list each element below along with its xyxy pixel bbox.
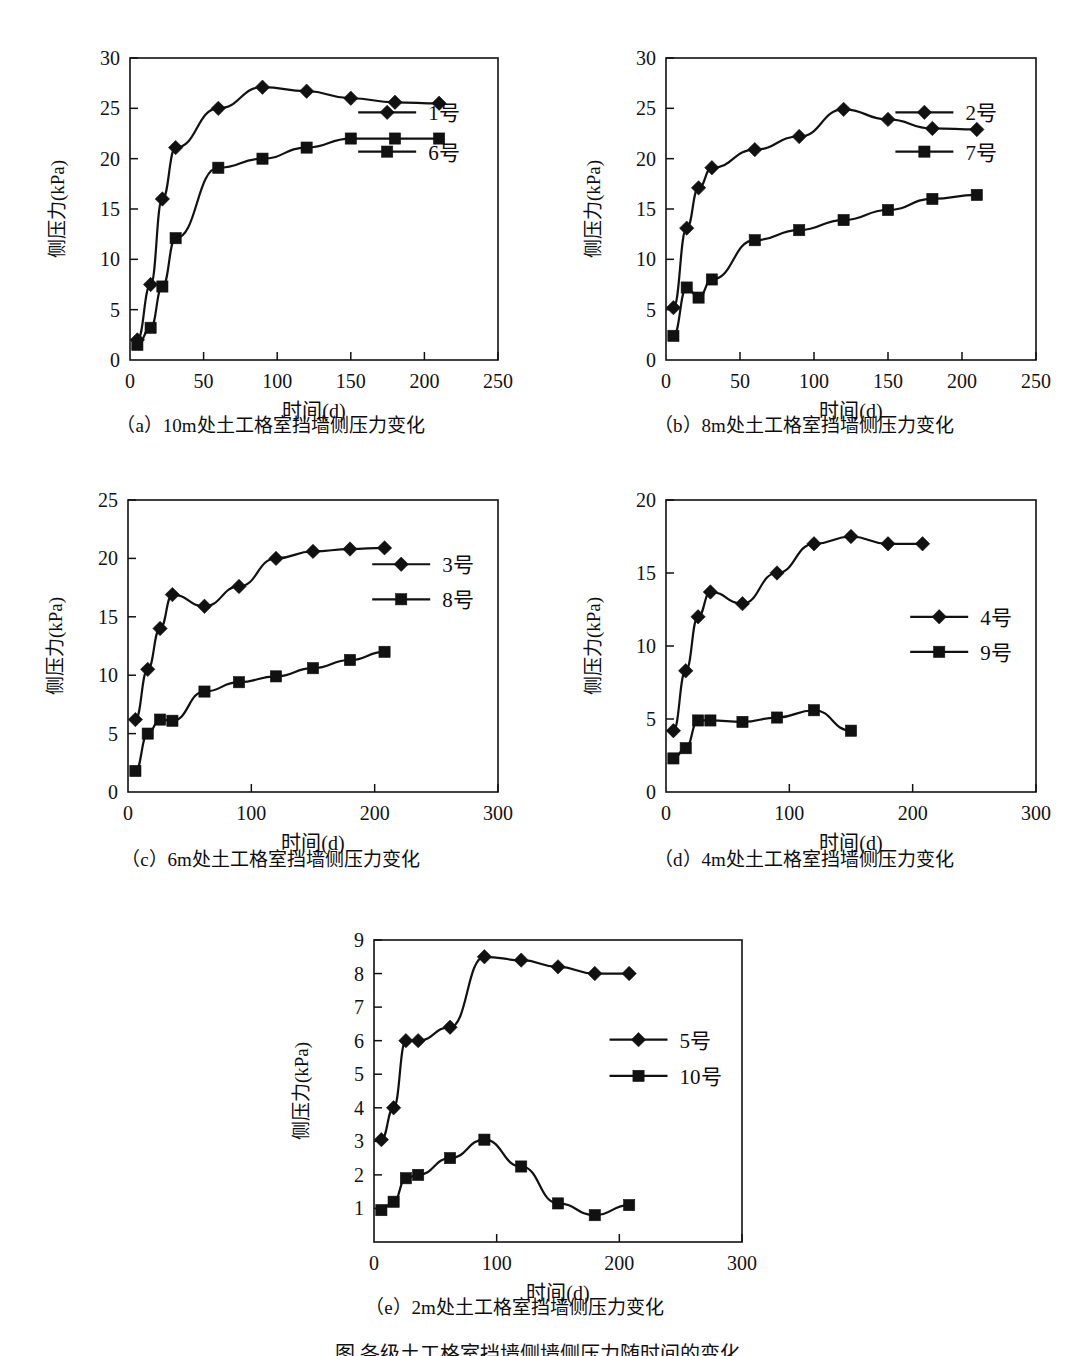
legend-entry-6号: 6号 [358, 141, 460, 165]
x-axis-tick-label: 300 [1021, 802, 1051, 824]
legend-label: 4号 [980, 606, 1012, 630]
data-point-diamond [380, 105, 394, 119]
chart-svg-e: 1234567890100200300时间(d)侧压力(kPa)5号10号 [262, 912, 767, 1292]
series-path [135, 548, 384, 720]
legend-label: 9号 [980, 641, 1012, 665]
legend-entry-9号: 9号 [910, 641, 1012, 665]
series-5号 [374, 950, 636, 1147]
x-axis-tick-label: 200 [409, 370, 439, 392]
x-axis-tick-label: 100 [799, 370, 829, 392]
chart-plot-a: 051015202530050100150200250时间(d)侧压力(kPa)… [18, 30, 523, 410]
series-6号 [132, 133, 445, 351]
x-axis-tick-label: 50 [730, 370, 750, 392]
legend-label: 3号 [442, 553, 474, 577]
x-axis-tick-label: 100 [482, 1252, 512, 1274]
x-axis-tick-label: 0 [369, 1252, 379, 1274]
x-axis-title: 时间(d) [819, 400, 882, 423]
data-point-square [170, 233, 181, 244]
chart-svg-c: 05101520250100200300时间(d)侧压力(kPa)3号8号 [18, 472, 523, 844]
figure-bottom-caption: 图 各级土工格室挡墙侧墙侧压力随时间的变化 [0, 1338, 1075, 1356]
y-axis-tick-label: 15 [98, 606, 118, 628]
chart-panel-b: 051015202530050100150200250时间(d)侧压力(kPa)… [548, 30, 1060, 437]
data-point-square [771, 712, 782, 723]
y-axis-title: 侧压力(kPa) [45, 597, 67, 695]
y-axis-tick-label: 20 [98, 547, 118, 569]
y-axis-tick-label: 5 [646, 708, 656, 730]
chart-svg-d: 051015200100200300时间(d)侧压力(kPa)4号9号 [548, 472, 1060, 844]
x-axis-title: 时间(d) [819, 832, 882, 855]
data-point-diamond [374, 1132, 388, 1146]
chart-caption-c: （c）6m处土工格室挡墙侧压力变化 [18, 844, 523, 871]
x-axis-tick-label: 200 [898, 802, 928, 824]
data-point-square [199, 686, 210, 697]
x-axis-title: 时间(d) [282, 400, 345, 423]
y-axis-tick-label: 3 [354, 1130, 364, 1152]
data-point-diamond [588, 966, 602, 980]
data-point-diamond [477, 950, 491, 964]
data-point-diamond [128, 712, 142, 726]
y-axis-tick-label: 5 [646, 299, 656, 321]
data-point-square [388, 1196, 399, 1207]
data-point-diamond [443, 1020, 457, 1034]
data-point-diamond [844, 529, 858, 543]
chart-caption-a: （a）10m处土工格室挡墙侧压力变化 [18, 410, 523, 437]
chart-caption-b: （b）8m处土工格室挡墙侧压力变化 [548, 410, 1060, 437]
data-point-square [167, 715, 178, 726]
data-point-square [749, 235, 760, 246]
data-point-diamond [514, 953, 528, 967]
series-8号 [130, 646, 390, 776]
data-point-square [270, 671, 281, 682]
data-point-diamond [155, 192, 169, 206]
data-point-square [142, 728, 153, 739]
data-point-diamond [666, 300, 680, 314]
data-point-square [479, 1134, 490, 1145]
y-axis-tick-label: 4 [354, 1097, 364, 1119]
data-point-square [396, 594, 407, 605]
chart-panel-e: 1234567890100200300时间(d)侧压力(kPa)5号10号 （e… [262, 912, 767, 1319]
x-axis-tick-label: 300 [483, 802, 513, 824]
data-point-diamond [807, 537, 821, 551]
data-point-square [919, 146, 930, 157]
data-point-square [307, 663, 318, 674]
data-point-diamond [153, 621, 167, 635]
legend-entry-10号: 10号 [610, 1065, 722, 1089]
y-axis-tick-label: 20 [100, 148, 120, 170]
chart-caption-e: （e）2m处土工格室挡墙侧压力变化 [262, 1292, 767, 1319]
series-3号 [128, 541, 392, 727]
data-point-diamond [748, 142, 762, 156]
chart-panel-a: 051015202530050100150200250时间(d)侧压力(kPa)… [18, 30, 523, 437]
series-10号 [376, 1134, 635, 1221]
y-axis-tick-label: 9 [354, 929, 364, 951]
x-axis-tick-label: 0 [123, 802, 133, 824]
y-axis-tick-label: 10 [636, 248, 656, 270]
data-point-square [257, 153, 268, 164]
y-axis-tick-label: 15 [636, 198, 656, 220]
chart-plot-b: 051015202530050100150200250时间(d)侧压力(kPa)… [548, 30, 1060, 410]
x-axis-tick-label: 0 [661, 370, 671, 392]
data-point-diamond [165, 587, 179, 601]
data-point-diamond [269, 551, 283, 565]
data-point-diamond [232, 579, 246, 593]
data-point-square [516, 1161, 527, 1172]
chart-panel-d: 051015200100200300时间(d)侧压力(kPa)4号9号 （d）4… [548, 472, 1060, 871]
y-axis-tick-label: 8 [354, 963, 364, 985]
data-point-square [589, 1210, 600, 1221]
legend-label: 6号 [428, 141, 460, 165]
data-point-square [444, 1153, 455, 1164]
data-point-square [633, 1070, 644, 1081]
data-point-square [693, 292, 704, 303]
y-axis-tick-label: 0 [108, 781, 118, 803]
data-point-square [692, 715, 703, 726]
series-path [673, 195, 976, 336]
series-7号 [668, 189, 983, 341]
y-axis-tick-label: 10 [98, 664, 118, 686]
data-point-square [382, 146, 393, 157]
data-point-square [400, 1173, 411, 1184]
data-point-square [130, 765, 141, 776]
data-point-square [882, 204, 893, 215]
data-point-diamond [394, 557, 408, 571]
data-point-diamond [299, 84, 313, 98]
legend-entry-4号: 4号 [910, 606, 1012, 630]
y-axis-title: 侧压力(kPa) [291, 1042, 313, 1140]
data-point-square [681, 282, 692, 293]
